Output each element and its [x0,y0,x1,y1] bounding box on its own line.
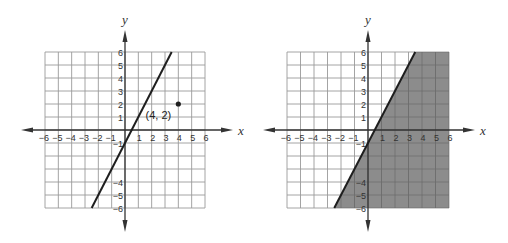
x-tick-label: 6 [203,133,208,143]
x-tick-label: 3 [163,133,168,143]
x-tick-label: 4 [420,133,425,143]
arrow-down-icon [123,220,128,232]
x-tick-label: 6 [447,133,452,143]
y-tick-label: −5 [356,191,366,201]
y-tick-label: −5 [113,191,123,201]
y-tick-label: 5 [361,61,366,71]
y-tick-label: 6 [118,48,123,58]
y-tick-label: −6 [113,204,123,214]
x-tick-label: 5 [190,133,195,143]
x-tick-label: −5 [52,133,62,143]
y-tick-label: −4 [113,178,123,188]
arrow-up-icon [366,30,371,42]
x-tick-label: 5 [434,133,439,143]
graphs-figure: xy−6−5−4−3−2−1123456654321−1−4−5−6(4, 2)… [0,0,508,243]
y-tick-label: −1 [113,139,123,149]
y-tick-label: 6 [361,48,366,58]
y-tick-label: −6 [356,204,366,214]
x-axis-label: x [479,123,486,138]
x-tick-label: −2 [335,133,345,143]
x-tick-label: −2 [92,133,102,143]
y-tick-label: 2 [361,100,366,110]
y-axis-label: y [363,12,371,27]
x-tick-label: −3 [321,133,331,143]
data-point [176,101,181,106]
y-tick-label: 1 [118,113,123,123]
y-axis-label: y [120,12,128,27]
arrow-up-icon [123,30,128,42]
y-tick-label: 3 [118,87,123,97]
x-tick-label: 2 [393,133,398,143]
x-axis-label: x [237,123,244,138]
arrow-left-icon [21,128,33,133]
x-tick-label: −4 [66,133,76,143]
x-tick-label: 4 [177,133,182,143]
graph-panel-1: xy−6−5−4−3−2−1123456654321−1−4−5−6(4, 2) [21,12,244,232]
y-tick-label: −1 [356,139,366,149]
y-tick-label: 1 [361,113,366,123]
data-point-label: (4, 2) [145,109,171,121]
graph-panel-2: xy−6−5−4−3−2−1123456654321−1−4−5−6 [263,12,486,232]
x-tick-label: 1 [380,133,385,143]
x-tick-label: 1 [137,133,142,143]
y-tick-label: 4 [118,74,123,84]
y-tick-label: 4 [361,74,366,84]
y-tick-label: 3 [361,87,366,97]
arrow-right-icon [463,128,475,133]
y-tick-label: 5 [118,61,123,71]
x-tick-label: −6 [281,133,291,143]
y-tick-label: 2 [118,100,123,110]
x-tick-label: 2 [150,133,155,143]
arrow-left-icon [263,128,275,133]
x-tick-label: −6 [39,133,49,143]
y-tick-label: −4 [356,178,366,188]
arrow-down-icon [366,220,371,232]
x-tick-label: −5 [294,133,304,143]
x-tick-label: −3 [79,133,89,143]
x-tick-label: 3 [407,133,412,143]
arrow-right-icon [221,128,233,133]
x-tick-label: −4 [308,133,318,143]
